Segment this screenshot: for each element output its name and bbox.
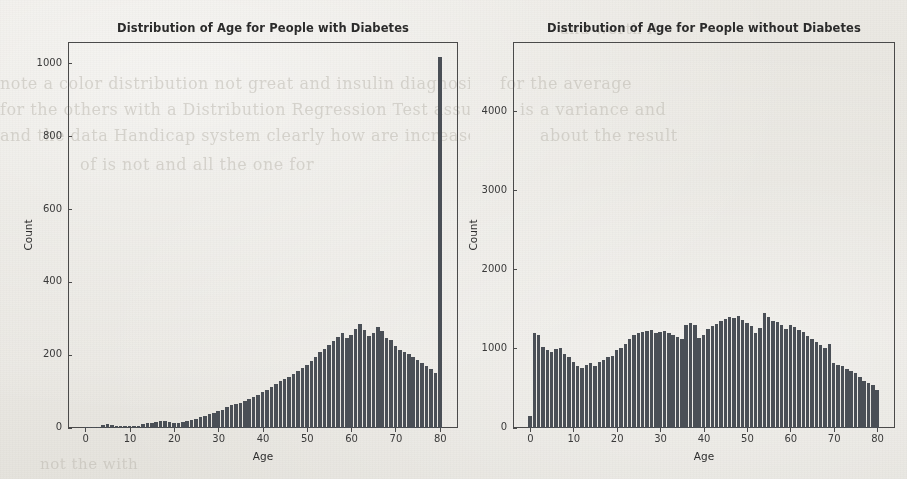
histogram-bar [261,392,265,428]
histogram-bar [265,390,269,428]
histogram-bar [724,319,727,428]
histogram-bar [567,357,570,428]
histogram-bar [349,335,353,428]
histogram-bar [598,362,601,428]
histogram-bar [541,347,544,428]
histogram-bar [658,332,661,429]
histogram-bar [92,427,96,428]
histogram-bar [572,362,575,428]
x-axis-label-right: Age [513,450,895,462]
y-tick-label: 3000 [482,184,507,195]
histogram-bar [354,329,358,428]
histogram-bar [632,335,635,428]
histogram-bar [611,356,614,428]
histogram-bar [137,426,141,428]
histogram-bar [159,421,163,428]
histogram-bar [115,426,119,428]
histogram-bar [336,337,340,428]
histogram-bar [318,352,322,428]
histogram-bar [314,357,318,428]
chart-title-right: Distribution of Age for People without D… [513,21,895,35]
x-tick-label: 30 [212,433,225,444]
histogram-bar [841,366,844,428]
histogram-bar [654,333,657,428]
histogram-bar [737,316,740,428]
x-tick-label: 60 [784,433,797,444]
x-tick-label: 80 [434,433,447,444]
y-tick-label: 1000 [482,342,507,353]
histogram-bar [150,423,154,428]
histogram-bar [274,384,278,428]
x-tick-label: 20 [168,433,181,444]
histogram-bar [181,422,185,428]
x-tick-label: 10 [124,433,137,444]
histogram-bar [327,345,331,428]
histogram-bar [190,420,194,428]
x-tick-label: 10 [567,433,580,444]
histogram-bar [123,426,127,428]
histogram-bar [823,348,826,428]
histogram-bar [305,365,309,428]
histogram-bar [745,323,748,428]
histogram-bar [208,414,212,428]
x-tick-label: 40 [257,433,270,444]
histogram-bar [871,385,874,428]
histogram-bar [301,368,305,428]
histogram-bar [372,333,376,428]
histogram-bar [425,366,429,428]
histogram-bar [589,363,592,428]
histogram-bar [168,422,172,428]
x-tick-label: 70 [390,433,403,444]
histogram-bar [345,338,349,428]
histogram-bar [750,326,753,428]
histogram-bar [684,325,687,428]
x-tick-label: 80 [871,433,884,444]
histogram-bar [767,317,770,428]
histogram-bar [832,363,835,428]
y-tick-label: 1000 [37,57,62,68]
histogram-bar [185,421,189,428]
histogram-bar [416,360,420,428]
histogram-bar [239,403,243,428]
histogram-bar [667,333,670,428]
histogram-bar [793,327,796,428]
histogram-bars-right [513,42,895,428]
histogram-bar [434,373,438,428]
y-tick-label: 0 [501,421,507,432]
histogram-bar [806,336,809,428]
y-tick-label: 0 [56,421,62,432]
histogram-bar [310,361,314,428]
histogram-bar [706,329,709,428]
histogram-bar [819,345,822,428]
histogram-bar [836,365,839,428]
histogram-bar [802,332,805,429]
histogram-bar [367,336,371,428]
histogram-bar [363,330,367,428]
x-tick-label: 50 [301,433,314,444]
histogram-bar [728,317,731,428]
histogram-bar [671,335,674,428]
chart-title-left: Distribution of Age for People with Diab… [68,21,458,35]
y-axis-label-left: Count [22,219,34,250]
histogram-bar [763,313,766,428]
histogram-bar [407,354,411,428]
x-tick-label: 0 [527,433,533,444]
y-tick-label: 4000 [482,105,507,116]
histogram-bar [203,416,207,428]
histogram-bar [216,411,220,428]
x-tick-label: 40 [698,433,711,444]
y-tick-label: 2000 [482,263,507,274]
histogram-bar [784,329,787,428]
histogram-bar [106,424,110,428]
histogram-bar [230,405,234,428]
histogram-bar [234,404,238,428]
histogram-bar [867,383,870,428]
histogram-bar [438,57,442,428]
histogram-bar [585,365,588,428]
histogram-bar [270,387,274,428]
histogram-bar [554,349,557,428]
histogram-bar [88,427,92,428]
x-tick-label: 0 [83,433,89,444]
histogram-bar [292,374,296,428]
histogram-bar [101,425,105,428]
